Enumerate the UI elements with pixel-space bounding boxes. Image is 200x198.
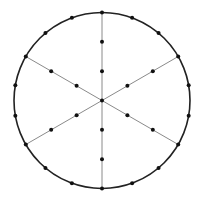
spoke-dot <box>49 69 53 73</box>
circumference-dot <box>100 11 104 15</box>
spoke-dot <box>100 157 104 161</box>
spoke-dot <box>75 113 79 117</box>
spoke-dot <box>75 84 79 88</box>
circumference-dot <box>13 114 17 118</box>
spoke-dot <box>100 69 104 73</box>
circumference-dot <box>70 181 74 185</box>
spoke-dot <box>100 128 104 132</box>
spoke-dot <box>151 69 155 73</box>
spoke-dot <box>125 84 129 88</box>
circumference-dot <box>24 55 28 59</box>
circumference-dot <box>187 114 191 118</box>
circumference-dot <box>130 16 134 20</box>
spoke-line <box>26 57 102 101</box>
spoke-line <box>26 101 102 145</box>
circumference-dot <box>43 31 47 35</box>
spoke-dot <box>151 128 155 132</box>
circumference-dot <box>13 83 17 87</box>
spoke-dot <box>49 128 53 132</box>
circumference-dot <box>24 143 28 147</box>
circumference-dot <box>100 187 104 191</box>
circumference-dot <box>187 83 191 87</box>
spoke-dot <box>125 113 129 117</box>
circumference-dot <box>157 166 161 170</box>
center-dot <box>100 99 104 103</box>
spoke-line <box>102 57 178 101</box>
circle-spoke-diagram <box>0 0 200 198</box>
circumference-dot <box>70 16 74 20</box>
circumference-dot <box>130 181 134 185</box>
circumference-dot <box>157 31 161 35</box>
circumference-dot <box>176 55 180 59</box>
spoke-line <box>102 101 178 145</box>
circumference-dot <box>176 143 180 147</box>
spoke-dot <box>100 40 104 44</box>
circumference-dot <box>43 166 47 170</box>
